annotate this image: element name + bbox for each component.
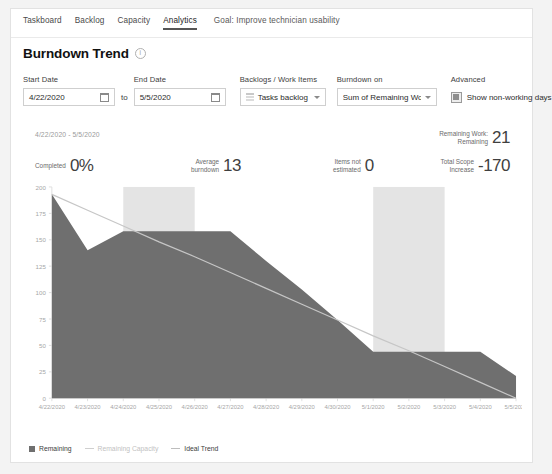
- x-tick-label: 4/22/2020: [39, 404, 66, 410]
- legend-item-ideal-trend[interactable]: Ideal Trend: [171, 445, 218, 452]
- x-tick-label: 4/27/2020: [217, 404, 244, 410]
- y-tick-label: 0: [42, 395, 46, 402]
- x-tick-label: 5/1/2020: [362, 404, 386, 410]
- end-date-group: End Date 5/5/2020: [134, 75, 226, 106]
- stat-total-scope-increase: Total Scope Increase -170: [441, 157, 510, 174]
- show-non-working-days-label: Show non-working days: [467, 93, 552, 102]
- burndown-chart: 0255075100125150175200 4/22/20204/23/202…: [23, 181, 522, 428]
- legend-label-ideal-trend: Ideal Trend: [184, 445, 218, 452]
- chevron-down-icon[interactable]: [425, 96, 431, 99]
- x-axis: 4/22/20204/23/20204/24/20204/25/20204/26…: [39, 398, 522, 410]
- tab-goal[interactable]: Goal: Improve technician usability: [214, 16, 340, 30]
- end-date-value: 5/5/2020: [140, 93, 171, 102]
- legend-item-remaining-capacity[interactable]: Remaining Capacity: [85, 445, 159, 452]
- burndown-on-value: Sum of Remaining Work: [343, 93, 421, 102]
- y-tick-label: 175: [36, 210, 47, 217]
- stat-completed-value: 0%: [70, 157, 94, 174]
- y-tick-label: 50: [39, 342, 46, 349]
- x-tick-label: 4/25/2020: [146, 404, 173, 410]
- backlog-value: Tasks backlog: [258, 93, 308, 102]
- stat-completed: Completed 0%: [35, 157, 93, 174]
- x-tick-label: 4/29/2020: [289, 404, 316, 410]
- burndown-on-label: Burndown on: [337, 75, 437, 84]
- calendar-icon[interactable]: [100, 93, 109, 102]
- x-tick-label: 5/2/2020: [397, 404, 421, 410]
- x-tick-label: 5/3/2020: [433, 404, 457, 410]
- x-tick-label: 4/26/2020: [182, 404, 209, 410]
- backlog-select[interactable]: Tasks backlog: [240, 88, 326, 106]
- y-tick-label: 125: [36, 263, 47, 270]
- backlog-label: Backlogs / Work Items: [240, 75, 326, 84]
- stat-total-scope-increase-value: -170: [478, 157, 510, 174]
- stat-remaining-work: Remaining Work: Remaining 21: [439, 129, 510, 146]
- start-date-value: 4/22/2020: [29, 93, 65, 102]
- y-tick-label: 150: [36, 236, 47, 243]
- backlog-icon: [246, 93, 254, 101]
- stat-average-burndown-value: 13: [223, 157, 241, 174]
- stat-average-burndown-label: Average burndown: [191, 158, 219, 174]
- y-tick-label: 25: [39, 368, 46, 375]
- stat-completed-label: Completed: [35, 162, 66, 170]
- chevron-down-icon[interactable]: [314, 96, 320, 99]
- show-non-working-days-checkbox[interactable]: Show non-working days: [451, 88, 552, 106]
- filter-bar: Start Date 4/22/2020 to End Date 5/5/202…: [23, 75, 522, 106]
- analytics-panel: Taskboard Backlog Capacity Analytics Goa…: [10, 8, 533, 463]
- burndown-on-group: Burndown on Sum of Remaining Work: [337, 75, 437, 106]
- burndown-chart-svg: 0255075100125150175200 4/22/20204/23/202…: [23, 181, 522, 428]
- tab-analytics[interactable]: Analytics: [163, 16, 197, 30]
- legend-label-remaining: Remaining: [39, 445, 72, 452]
- burndown-on-select[interactable]: Sum of Remaining Work: [337, 88, 437, 106]
- stat-total-scope-increase-label: Total Scope Increase: [441, 158, 474, 174]
- start-date-input[interactable]: 4/22/2020: [23, 88, 115, 106]
- y-axis: 0255075100125150175200: [36, 184, 52, 402]
- advanced-label: Advanced: [451, 75, 552, 84]
- page-title-row: Burndown Trend i: [23, 46, 146, 61]
- stat-remaining-work-label: Remaining Work: Remaining: [439, 130, 488, 146]
- calendar-icon[interactable]: [211, 93, 220, 102]
- legend-line-icon: [171, 448, 180, 449]
- end-date-input[interactable]: 5/5/2020: [134, 88, 226, 106]
- date-range-separator: to: [121, 93, 128, 102]
- stat-remaining-work-value: 21: [492, 129, 510, 146]
- y-tick-label: 100: [36, 289, 47, 296]
- stat-items-not-estimated-value: 0: [365, 157, 374, 174]
- legend-line-icon: [85, 448, 94, 449]
- stat-items-not-estimated-label: Items not estimated: [333, 158, 361, 174]
- stat-average-burndown: Average burndown 13: [191, 157, 241, 174]
- legend-label-remaining-capacity: Remaining Capacity: [98, 445, 159, 452]
- x-tick-label: 4/24/2020: [110, 404, 137, 410]
- chart-legend: Remaining Remaining Capacity Ideal Trend: [29, 445, 231, 452]
- y-tick-label: 200: [36, 184, 47, 191]
- tab-capacity[interactable]: Capacity: [118, 16, 151, 30]
- tab-bar: Taskboard Backlog Capacity Analytics Goa…: [11, 9, 532, 38]
- page-title: Burndown Trend: [23, 46, 129, 61]
- stat-items-not-estimated: Items not estimated 0: [333, 157, 374, 174]
- x-tick-label: 5/4/2020: [469, 404, 493, 410]
- backlog-group: Backlogs / Work Items Tasks backlog: [240, 75, 326, 106]
- y-tick-label: 75: [39, 316, 46, 323]
- chart-date-range: 4/22/2020 - 5/5/2020: [35, 131, 100, 138]
- x-tick-label: 4/30/2020: [324, 404, 351, 410]
- end-date-label: End Date: [134, 75, 226, 84]
- legend-item-remaining[interactable]: Remaining: [29, 445, 72, 452]
- tab-taskboard[interactable]: Taskboard: [23, 16, 62, 30]
- legend-swatch-icon: [29, 446, 35, 452]
- x-tick-label: 5/5/2020: [505, 404, 522, 410]
- info-icon[interactable]: i: [135, 48, 146, 59]
- x-tick-label: 4/23/2020: [75, 404, 102, 410]
- start-date-group: Start Date 4/22/2020: [23, 75, 115, 106]
- advanced-group: Advanced Show non-working days: [451, 75, 552, 106]
- start-date-label: Start Date: [23, 75, 115, 84]
- tab-backlog[interactable]: Backlog: [75, 16, 105, 30]
- x-tick-label: 4/28/2020: [253, 404, 280, 410]
- checkbox-icon[interactable]: [451, 92, 462, 103]
